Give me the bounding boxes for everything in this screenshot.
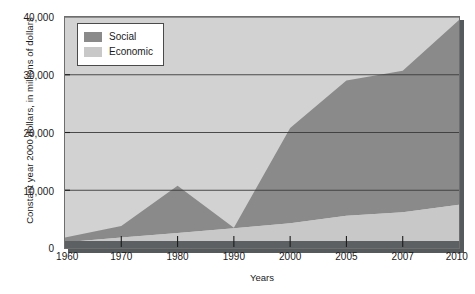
x-tick-label: 2010 (446, 252, 468, 262)
x-tick-label: 1960 (56, 252, 78, 262)
legend-swatch-social (84, 32, 102, 42)
x-tick-label: 1980 (166, 252, 188, 262)
plot-area: Social Economic (64, 16, 460, 249)
x-tick-label: 2005 (335, 252, 357, 262)
x-tick-label: 2007 (392, 252, 414, 262)
y-axis-tick-labels: 40,000 30,000 20,000 10,000 0 (8, 0, 54, 294)
legend-label-social: Social (109, 32, 136, 42)
chart-figure: Constant year 2000 dollars, in millions … (0, 0, 475, 294)
y-tick-label: 40,000 (8, 13, 54, 23)
legend-item-economic[interactable]: Economic (84, 45, 153, 59)
legend-label-economic: Economic (109, 47, 153, 57)
legend-item-social[interactable]: Social (84, 30, 153, 44)
x-tick-label: 2000 (279, 252, 301, 262)
x-axis-band (65, 241, 459, 248)
y-tick-label: 20,000 (8, 129, 54, 139)
x-axis-title: Years (64, 272, 460, 283)
chart-legend: Social Economic (77, 23, 164, 66)
plot-area-wrapper: Social Economic (64, 16, 460, 249)
x-axis-tick-labels: 19601970198019902000200520072010 (64, 252, 460, 268)
x-tick-label: 1970 (110, 252, 132, 262)
y-tick-label: 10,000 (8, 187, 54, 197)
x-tick-label: 1990 (223, 252, 245, 262)
legend-swatch-economic (84, 47, 102, 57)
y-tick-label: 30,000 (8, 71, 54, 81)
y-tick-label: 0 (8, 244, 54, 254)
